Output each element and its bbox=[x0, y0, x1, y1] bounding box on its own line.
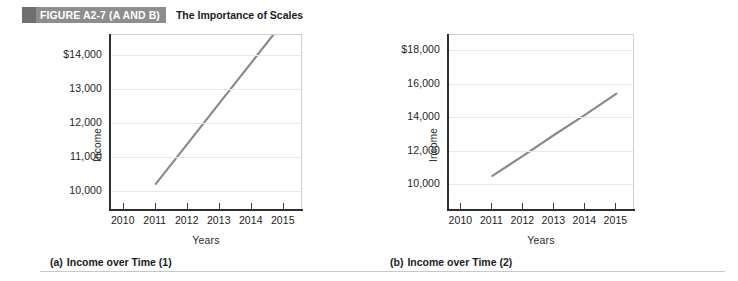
series-line bbox=[156, 21, 284, 183]
y-tick-label: 11,000 bbox=[70, 150, 102, 162]
x-axis-label-a: Years bbox=[192, 234, 219, 246]
chart-panel-b: Income $18,00016,00014,00012,00010,000 2… bbox=[390, 34, 720, 219]
x-tick-mark bbox=[123, 203, 124, 209]
x-tick-label: 2015 bbox=[271, 214, 295, 226]
x-tick-label: 2015 bbox=[604, 214, 628, 226]
panel-caption-text-a: Income over Time (1) bbox=[67, 256, 172, 268]
y-axis-line-b bbox=[447, 34, 449, 210]
x-tick-label: 2013 bbox=[542, 214, 566, 226]
x-axis-line-b bbox=[447, 209, 635, 211]
x-tick-mark bbox=[219, 203, 220, 209]
x-tick-mark bbox=[491, 203, 492, 209]
plot-area-a: Income $14,00013,00012,00011,00010,000 2… bbox=[30, 34, 360, 219]
panel-caption-tag-a: (a) bbox=[50, 256, 63, 268]
x-tick-mark bbox=[553, 203, 554, 209]
gridline bbox=[449, 151, 633, 152]
gridline bbox=[111, 191, 301, 192]
gridline bbox=[449, 50, 633, 51]
gridline bbox=[111, 123, 301, 124]
gridline bbox=[449, 84, 633, 85]
y-tick-label: 12,000 bbox=[407, 144, 440, 156]
gridline bbox=[111, 55, 301, 56]
x-tick-label: 2012 bbox=[511, 214, 535, 226]
panel-caption-text-b: Income over Time (2) bbox=[407, 256, 512, 268]
x-axis-label-b: Years bbox=[527, 234, 554, 246]
y-tick-label: 12,000 bbox=[69, 116, 102, 128]
x-tick-mark bbox=[584, 203, 585, 209]
panel-caption-b: (b)Income over Time (2) bbox=[390, 256, 512, 268]
x-tick-label: 2014 bbox=[573, 214, 597, 226]
y-tick-label: 13,000 bbox=[69, 82, 102, 94]
plot-area-b: Income $18,00016,00014,00012,00010,000 2… bbox=[390, 34, 720, 219]
x-tick-label: 2010 bbox=[449, 214, 473, 226]
x-tick-mark bbox=[155, 203, 156, 209]
y-tick-label: 10,000 bbox=[407, 177, 440, 189]
x-axis-line-a bbox=[109, 209, 303, 211]
x-tick-mark bbox=[460, 203, 461, 209]
figure-header: FIGURE A2-7 (A AND B) The Importance of … bbox=[22, 7, 303, 23]
plot-frame-a bbox=[110, 34, 302, 210]
y-tick-label: 16,000 bbox=[407, 77, 440, 89]
x-tick-label: 2010 bbox=[111, 214, 135, 226]
gridline bbox=[449, 184, 633, 185]
y-tick-label: 10,000 bbox=[69, 184, 102, 196]
footer-divider bbox=[40, 271, 725, 272]
gridline bbox=[449, 117, 633, 118]
x-tick-label: 2011 bbox=[480, 214, 503, 226]
y-tick-label: 14,000 bbox=[407, 110, 440, 122]
y-tick-label: $18,000 bbox=[401, 43, 440, 55]
y-axis-ticks-b: $18,00016,00014,00012,00010,000 bbox=[390, 34, 444, 210]
figure-title: The Importance of Scales bbox=[176, 9, 303, 21]
y-axis-ticks-a: $14,00013,00012,00011,00010,000 bbox=[52, 34, 106, 210]
series-line bbox=[492, 94, 616, 176]
y-tick-label: $14,000 bbox=[63, 48, 102, 60]
x-tick-label: 2013 bbox=[207, 214, 231, 226]
gridline bbox=[111, 157, 301, 158]
x-tick-mark bbox=[522, 203, 523, 209]
figure-number-badge: FIGURE A2-7 (A AND B) bbox=[22, 7, 166, 23]
x-tick-mark bbox=[251, 203, 252, 209]
x-tick-label: 2014 bbox=[239, 214, 263, 226]
plot-frame-b bbox=[448, 34, 634, 210]
x-tick-mark bbox=[283, 203, 284, 209]
panel-caption-a: (a)Income over Time (1) bbox=[50, 256, 172, 268]
x-tick-mark bbox=[187, 203, 188, 209]
chart-panel-a: Income $14,00013,00012,00011,00010,000 2… bbox=[30, 34, 360, 219]
x-tick-label: 2012 bbox=[175, 214, 199, 226]
panel-caption-tag-b: (b) bbox=[390, 256, 403, 268]
x-tick-label: 2011 bbox=[143, 214, 166, 226]
gridline bbox=[111, 89, 301, 90]
y-axis-line-a bbox=[109, 34, 111, 210]
x-tick-mark bbox=[615, 203, 616, 209]
